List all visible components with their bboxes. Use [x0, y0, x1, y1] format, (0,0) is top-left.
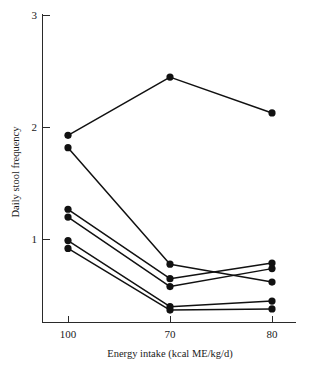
x-axis-title: Energy intake (kcal ME/kg/d) [107, 348, 233, 360]
chart-figure: 3 2 1 100 70 80 Energy intake (kcal ME/k… [0, 0, 314, 371]
data-point [64, 144, 71, 151]
daily-stool-frequency-chart: 3 2 1 100 70 80 Energy intake (kcal ME/k… [0, 0, 314, 371]
x-tick-label-80: 80 [267, 328, 279, 340]
y-tick-label-2: 2 [32, 121, 38, 133]
data-point [64, 132, 71, 139]
data-point [166, 283, 173, 290]
data-point [268, 265, 275, 272]
data-point [64, 214, 71, 221]
x-tick-label-70: 70 [165, 328, 177, 340]
data-point [64, 206, 71, 213]
data-point [166, 275, 173, 282]
data-point [166, 306, 173, 313]
x-tick-label-100: 100 [60, 328, 77, 340]
data-point [166, 74, 173, 81]
axes-group: 3 2 1 100 70 80 Energy intake (kcal ME/k… [10, 9, 296, 360]
data-point [64, 237, 71, 244]
series-line-subject-3 [68, 209, 272, 278]
data-point [166, 261, 173, 268]
data-point [268, 305, 275, 312]
data-point [64, 245, 71, 252]
data-point [268, 278, 275, 285]
data-point [268, 109, 275, 116]
y-axis-title: Daily stool frequency [10, 126, 21, 218]
y-tick-label-3: 3 [32, 9, 38, 21]
y-tick-label-1: 1 [32, 233, 38, 245]
data-point [268, 298, 275, 305]
series-line-subject-1 [68, 77, 272, 135]
